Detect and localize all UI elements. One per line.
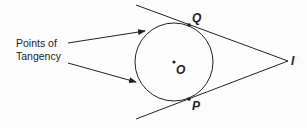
tangent-point-q: [187, 23, 191, 27]
label-q: Q: [192, 11, 201, 25]
caption-line-1: Points of: [16, 37, 61, 50]
diagram-graphic: [0, 0, 307, 128]
arrow-lower: [68, 63, 136, 82]
caption-line-2: Tangency: [16, 50, 61, 63]
label-o: O: [176, 63, 185, 77]
tangent-point-p: [187, 97, 191, 101]
label-i: I: [291, 54, 294, 68]
points-of-tangency-caption: Points of Tangency: [16, 37, 61, 63]
arrow-upper: [68, 31, 145, 43]
label-p: P: [192, 99, 200, 113]
tangent-lines-diagram: Points of Tangency O Q P I: [0, 0, 307, 128]
